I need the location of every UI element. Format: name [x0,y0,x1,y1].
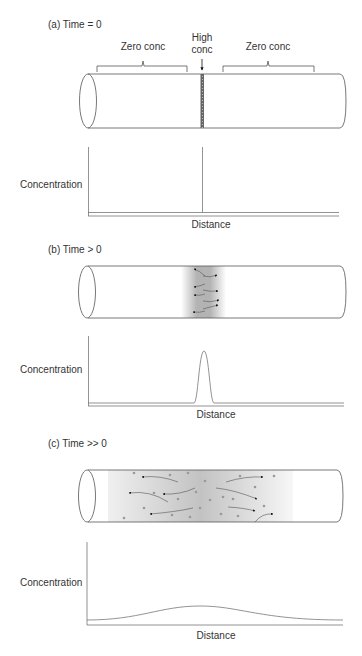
right-zero-conc-label: Zero conc [246,42,290,52]
left-region-bracket [97,61,187,72]
left-zero-conc-label: Zero conc [121,42,165,52]
panel-b [79,266,347,406]
high-conc-label-line1: High [192,33,213,43]
tube-c [79,470,344,522]
panel-c-label: (c) Time >> 0 [48,439,107,449]
panel-a [80,59,347,216]
chart-a-xlabel: Distance [192,220,231,230]
diffusion-cloud [108,470,293,522]
concentration-curve-b [88,351,344,403]
chart-c [87,542,343,625]
panel-a-label: (a) Time = 0 [48,20,102,30]
tube-b [79,266,347,318]
chart-a-ylabel: Concentration [20,180,82,190]
high-conc-band [201,74,205,128]
chart-b [88,336,344,406]
chart-a [88,147,339,216]
right-region-bracket [223,61,314,72]
chart-b-ylabel: Concentration [20,365,82,375]
concentration-curve-c [87,606,343,620]
tube-a [80,74,347,128]
panel-b-label: (b) Time > 0 [48,245,102,255]
chart-c-xlabel: Distance [197,631,236,641]
chart-c-ylabel: Concentration [20,578,82,588]
chart-b-xlabel: Distance [197,410,236,420]
panel-c [79,470,344,625]
high-conc-label-line2: conc [191,45,212,55]
diffusion-cloud [181,266,226,318]
diffusion-diagram [0,0,362,656]
